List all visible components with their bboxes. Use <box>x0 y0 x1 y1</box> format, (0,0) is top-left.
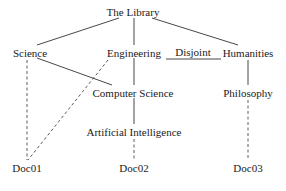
edge-engineering-doc01 <box>28 60 108 160</box>
node-computer-science: Computer Science <box>93 87 174 99</box>
node-doc01: Doc01 <box>12 162 41 174</box>
disjoint-label: Disjoint <box>175 46 210 58</box>
edge-root-humanities <box>152 18 238 45</box>
node-humanities: Humanities <box>223 47 274 59</box>
edge-science-computer-science <box>37 58 112 85</box>
node-artificial-intelligence: Artificial Intelligence <box>87 126 182 138</box>
node-doc03: Doc03 <box>233 162 262 174</box>
node-philosophy: Philosophy <box>223 87 273 99</box>
node-engineering: Engineering <box>107 47 161 59</box>
node-science: Science <box>13 47 47 59</box>
edge-root-science <box>37 18 119 45</box>
node-the-library: The Library <box>107 6 160 18</box>
node-doc02: Doc02 <box>119 162 148 174</box>
